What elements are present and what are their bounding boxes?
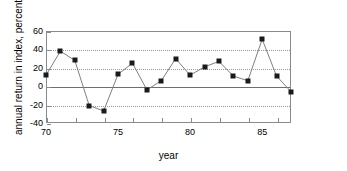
data-point: [289, 89, 294, 94]
x-axis-tick-label: 70: [41, 127, 51, 137]
data-point: [188, 73, 193, 78]
y-axis-tick-label: 40: [33, 44, 43, 54]
data-point: [101, 109, 106, 114]
data-point: [216, 59, 221, 64]
y-axis-tick-label: 20: [33, 63, 43, 73]
data-point: [274, 74, 279, 79]
data-point: [231, 74, 236, 79]
data-point: [245, 78, 250, 83]
data-point: [58, 49, 63, 54]
y-axis-tick: [47, 124, 51, 125]
y-axis-tick-label: -20: [30, 100, 43, 110]
data-point: [130, 61, 135, 66]
data-point: [116, 72, 121, 77]
data-markers: [46, 31, 291, 123]
x-axis-tick-label: 75: [113, 127, 123, 137]
data-point: [87, 103, 92, 108]
data-point: [159, 78, 164, 83]
x-axis-tick-labels: 70758085: [0, 127, 347, 141]
data-point: [144, 87, 149, 92]
x-axis-tick-label: 80: [185, 127, 195, 137]
data-point: [173, 56, 178, 61]
data-point: [44, 73, 49, 78]
x-axis-tick-label: 85: [257, 127, 267, 137]
y-axis-tick-labels: 6040200-20-40: [0, 31, 43, 123]
data-point: [202, 64, 207, 69]
x-axis-title: year: [46, 150, 291, 161]
chart-figure: annual return in index, percent 6040200-…: [0, 0, 347, 171]
data-point: [260, 37, 265, 42]
data-point: [72, 58, 77, 63]
y-axis-tick-label: 60: [33, 26, 43, 36]
y-axis-tick-label: 0: [38, 81, 43, 91]
